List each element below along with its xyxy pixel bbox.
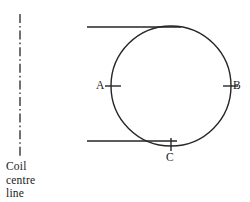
point-label-c: C [166,152,174,164]
centre-line-caption: Coil centre line [6,160,76,201]
caption-line-1: Coil [6,160,76,174]
point-label-a: A [96,80,104,92]
conductor-circle [111,26,231,146]
coil-cross-section-diagram: A B C Coil centre line [0,0,250,202]
caption-line-2: centre [6,174,76,188]
caption-line-3: line [6,187,76,201]
point-label-b: B [233,80,241,92]
